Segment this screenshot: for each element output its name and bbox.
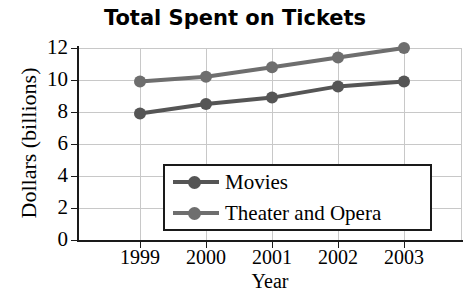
legend-label-theater: Theater and Opera [225,203,381,224]
data-point [134,108,146,120]
y-tick-mark [71,240,78,241]
data-point [134,76,146,88]
data-point [200,71,212,83]
y-tick-mark [71,80,78,81]
data-point [266,92,278,104]
data-point [266,61,278,73]
y-tick-label: 10 [34,69,68,90]
data-point [398,76,410,88]
legend-box: Movies Theater and Opera [163,164,432,231]
x-tick-label: 1999 [106,247,174,267]
chart-figure: Total Spent on Tickets Dollars (billions… [0,0,470,300]
y-tick-label: 2 [34,197,68,218]
x-tick-label: 2002 [304,247,372,267]
data-point [398,42,410,54]
y-tick-label: 4 [34,165,68,186]
y-tick-label: 12 [34,37,68,58]
y-tick-mark [71,48,78,49]
x-axis-title: Year [78,270,462,293]
legend-label-movies: Movies [225,172,288,193]
data-point [332,52,344,64]
legend-marker-theater [173,206,219,220]
legend-item-theater: Theater and Opera [173,198,381,228]
data-point [332,80,344,92]
x-tick-label: 2003 [370,247,438,267]
legend-dot-movies [188,176,201,189]
legend-dot-theater [188,207,201,220]
x-axis-line [77,240,463,242]
y-tick-label: 6 [34,133,68,154]
y-tick-mark [71,208,78,209]
y-tick-label: 0 [34,229,68,250]
y-tick-mark [71,176,78,177]
chart-title: Total Spent on Tickets [0,6,470,30]
data-point [200,98,212,110]
legend-marker-movies [173,175,219,189]
y-tick-mark [71,112,78,113]
x-tick-label: 2001 [238,247,306,267]
x-tick-label: 2000 [172,247,240,267]
legend-item-movies: Movies [173,167,288,197]
y-tick-mark [71,144,78,145]
y-tick-label: 8 [34,101,68,122]
